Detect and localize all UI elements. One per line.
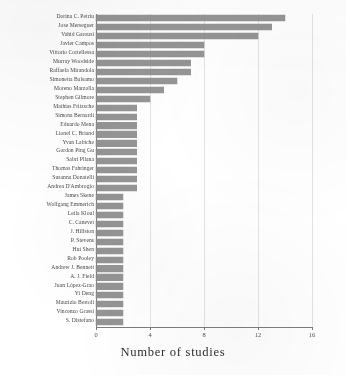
bar-row: Rob Pooley: [96, 255, 312, 264]
bar-row: Vincenzo Grassi: [96, 309, 312, 318]
bar-row: Leila Kloul: [96, 211, 312, 220]
bar-row: Juan López-Grao: [96, 282, 312, 291]
bar-row: Moreno Marzolla: [96, 86, 312, 95]
category-label: Vincenzo Grassi: [56, 307, 94, 316]
category-label: Moreno Marzolla: [54, 84, 94, 93]
bar-rows: Dorina C. PetriuJose MerseguerVahid Garo…: [96, 14, 312, 327]
category-label: Lionel C. Briand: [55, 129, 94, 138]
bar-row: Vahid Garousi: [96, 32, 312, 41]
bar-row: C. Canevet: [96, 220, 312, 229]
bar: [96, 239, 123, 245]
bar-row: Yi Deng: [96, 291, 312, 300]
category-label: Gordon Ping Gu: [56, 146, 94, 155]
category-label: Rob Pooley: [67, 254, 94, 263]
bar: [96, 176, 137, 182]
category-label: Simonetta Balsamo: [49, 75, 94, 84]
category-label: P. Stevens: [71, 236, 94, 245]
category-label: Andrew J. Bennett: [51, 263, 94, 272]
category-label: Wolfgang Emmerich: [47, 200, 94, 209]
bar-row: Lionel C. Briand: [96, 130, 312, 139]
bar-row: Eduardo Mena: [96, 121, 312, 130]
bar: [96, 221, 123, 227]
bar: [96, 248, 123, 254]
bar-row: A. J. Field: [96, 273, 312, 282]
category-label: Maurizio Bertoli: [56, 298, 94, 307]
bar: [96, 185, 137, 191]
category-label: Simona Bernardi: [55, 111, 94, 120]
bar: [96, 158, 137, 164]
bar: [96, 274, 123, 280]
bar-row: Jose Merseguer: [96, 23, 312, 32]
x-tick-label: 12: [255, 331, 261, 338]
bar: [96, 87, 164, 93]
bar: [96, 203, 123, 209]
category-label: Leila Kloul: [68, 209, 94, 218]
category-label: Yi Deng: [75, 289, 94, 298]
bar-row: Stephen Gilmore: [96, 94, 312, 103]
bar: [96, 149, 137, 155]
category-label: Murray Woodside: [53, 57, 94, 66]
bar-row: Dorina C. Petriu: [96, 14, 312, 23]
bar-row: Simona Bernardi: [96, 112, 312, 121]
x-tick-mark: [258, 327, 259, 330]
x-tick-label: 0: [94, 331, 97, 338]
bar-row: James Skene: [96, 193, 312, 202]
bar-row: P. Stevens: [96, 237, 312, 246]
x-tick-mark: [96, 327, 97, 330]
bar: [96, 319, 123, 325]
category-label: Raffaela Mirandola: [50, 66, 94, 75]
x-axis-title: Number of studies: [0, 345, 346, 360]
category-label: Yvan Labiche: [62, 138, 94, 147]
category-label: Vittorio Cortellessa: [49, 48, 94, 57]
bar: [96, 230, 123, 236]
category-label: James Skene: [65, 191, 94, 200]
bar: [96, 105, 137, 111]
bar-row: Andrew J. Bennett: [96, 264, 312, 273]
gridline: [312, 14, 313, 327]
bar-row: Raffaela Mirandola: [96, 68, 312, 77]
bar-row: Murray Woodside: [96, 59, 312, 68]
bar-row: Thomas Fahringer: [96, 166, 312, 175]
bar-row: Susanna Donatelli: [96, 175, 312, 184]
category-label: A. J. Field: [70, 272, 94, 281]
bar-row: Hui Shen: [96, 246, 312, 255]
bar: [96, 78, 177, 84]
category-label: Susanna Donatelli: [52, 173, 94, 182]
category-label: Dorina C. Petriu: [56, 12, 94, 21]
category-label: C. Canevet: [69, 218, 94, 227]
plot-area: Dorina C. PetriuJose MerseguerVahid Garo…: [96, 14, 312, 327]
bar: [96, 310, 123, 316]
x-tick-label: 8: [202, 331, 205, 338]
category-label: Andrea D'Ambrogio: [47, 182, 94, 191]
bar: [96, 283, 123, 289]
bar: [96, 167, 137, 173]
bar-row: Simonetta Balsamo: [96, 77, 312, 86]
category-label: Eduardo Mena: [60, 120, 94, 129]
bar: [96, 140, 137, 146]
category-label: Juan López-Grao: [55, 281, 94, 290]
x-tick-mark: [204, 327, 205, 330]
bar-row: Vittorio Cortellessa: [96, 50, 312, 59]
bar: [96, 24, 272, 30]
bar: [96, 131, 137, 137]
x-axis-title-text: Number of studies: [121, 345, 226, 360]
bar-row: Mathias Fritzsche: [96, 103, 312, 112]
bar: [96, 194, 123, 200]
bar: [96, 292, 123, 298]
bar: [96, 69, 191, 75]
category-label: Jose Merseguer: [58, 21, 94, 30]
bar: [96, 257, 123, 263]
bar-row: Sabri Pllana: [96, 157, 312, 166]
bar: [96, 265, 123, 271]
bar-row: Javier Campos: [96, 41, 312, 50]
bar: [96, 42, 204, 48]
category-label: Vahid Garousi: [61, 30, 94, 39]
bar-row: Wolfgang Emmerich: [96, 202, 312, 211]
bar: [96, 212, 123, 218]
category-label: J. Hillston: [70, 227, 94, 236]
bar: [96, 114, 137, 120]
bar: [96, 96, 150, 102]
category-label: Hui Shen: [73, 245, 94, 254]
category-label: S. Distefano: [66, 316, 94, 325]
category-label: Sabri Pllana: [66, 155, 94, 164]
